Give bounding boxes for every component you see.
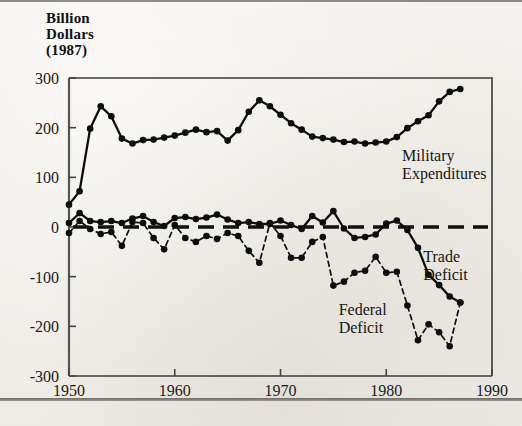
x-tick-label: 1980 bbox=[370, 382, 402, 399]
series-label-federal-deficit: FederalDeficit bbox=[339, 301, 388, 336]
y-tick-label: -100 bbox=[30, 269, 59, 286]
series-federal-deficit bbox=[66, 218, 464, 350]
x-tick-label: 1970 bbox=[265, 382, 297, 399]
y-tick-label: 0 bbox=[51, 219, 59, 236]
series-annotation-layer: MilitaryExpendituresTradeDeficitFederalD… bbox=[339, 147, 487, 336]
x-tick-label: 1990 bbox=[476, 382, 508, 399]
y-tick-label: 300 bbox=[35, 70, 59, 87]
series-label-military-expenditures: MilitaryExpenditures bbox=[402, 147, 486, 183]
y-tick-label: 200 bbox=[35, 120, 59, 137]
x-tick-label: 1960 bbox=[159, 382, 191, 399]
series-trade-deficit bbox=[66, 208, 464, 306]
chart-series-layer bbox=[66, 86, 464, 350]
series-label-trade-deficit: TradeDeficit bbox=[423, 248, 468, 283]
x-tick-label: 1950 bbox=[53, 382, 85, 399]
y-tick-label: -200 bbox=[30, 318, 59, 335]
line-chart: 3002001000-100-200-300195019601970198019… bbox=[0, 0, 522, 426]
y-tick-label: 100 bbox=[35, 169, 59, 186]
